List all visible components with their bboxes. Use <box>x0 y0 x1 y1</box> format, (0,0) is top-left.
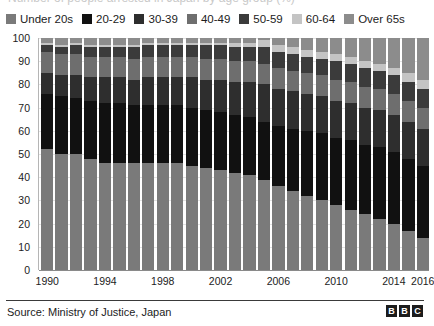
bar-column[interactable] <box>142 38 154 270</box>
bar-segment <box>200 110 212 168</box>
bar-segment <box>330 205 342 270</box>
bar-column[interactable] <box>258 38 270 270</box>
bar-column[interactable] <box>70 38 82 270</box>
legend-swatch-icon <box>292 14 302 24</box>
chart-legend: Under 20s20-2930-3940-4950-5960-64Over 6… <box>6 11 430 27</box>
bar-column[interactable] <box>55 38 67 270</box>
bar-segment <box>186 45 198 57</box>
legend-item[interactable]: 30-39 <box>134 14 177 25</box>
bar-segment <box>373 38 385 64</box>
y-axis-tick-label: 100 <box>12 32 30 44</box>
legend-item[interactable]: 40-49 <box>187 14 230 25</box>
bar-segment <box>345 38 357 57</box>
bar-segment <box>214 45 226 59</box>
bar-column[interactable] <box>84 38 96 270</box>
bar-column[interactable] <box>373 38 385 270</box>
bar-segment <box>41 73 53 94</box>
bbc-logo-block: B <box>386 305 397 317</box>
legend-label: Under 20s <box>20 14 73 25</box>
bar-column[interactable] <box>330 38 342 270</box>
bar-segment <box>142 105 154 163</box>
bar-segment <box>272 38 284 45</box>
y-axis-tick-label: 30 <box>18 194 30 206</box>
bar-segment <box>417 166 429 238</box>
bar-segment <box>287 54 299 70</box>
bar-segment <box>388 75 400 94</box>
bar-segment <box>70 98 82 154</box>
bar-segment <box>258 84 270 121</box>
bar-segment <box>359 108 371 145</box>
bar-segment <box>99 47 111 56</box>
bar-column[interactable] <box>113 38 125 270</box>
bar-column[interactable] <box>186 38 198 270</box>
bar-segment <box>330 61 342 80</box>
bar-segment <box>229 173 241 270</box>
bar-segment <box>359 87 371 108</box>
bar-column[interactable] <box>359 38 371 270</box>
legend-item[interactable]: Under 20s <box>6 14 73 25</box>
bar-column[interactable] <box>345 38 357 270</box>
bar-column[interactable] <box>402 38 414 270</box>
legend-item[interactable]: 20-29 <box>82 14 125 25</box>
bar-segment <box>316 200 328 270</box>
bar-column[interactable] <box>128 38 140 270</box>
bar-segment <box>359 214 371 270</box>
legend-label: 60-64 <box>306 14 335 25</box>
bar-segment <box>402 159 414 231</box>
bar-column[interactable] <box>301 38 313 270</box>
legend-swatch-icon <box>6 14 16 24</box>
bar-segment <box>330 138 342 205</box>
bar-column[interactable] <box>171 38 183 270</box>
bar-segment <box>55 54 67 75</box>
bar-segment <box>345 64 357 83</box>
x-axis-tick-label: 2002 <box>209 275 232 287</box>
bar-segment <box>345 210 357 270</box>
bar-segment <box>402 101 414 122</box>
bar-segment <box>113 103 125 163</box>
bar-column[interactable] <box>99 38 111 270</box>
bar-segment <box>287 38 299 47</box>
bar-segment <box>359 38 371 61</box>
bar-column[interactable] <box>243 38 255 270</box>
bar-segment <box>272 186 284 270</box>
bar-column[interactable] <box>214 38 226 270</box>
bar-segment <box>301 73 313 94</box>
bar-segment <box>186 57 198 78</box>
bar-segment <box>373 219 385 270</box>
bar-segment <box>142 57 154 78</box>
bar-column[interactable] <box>41 38 53 270</box>
bar-segment <box>157 77 169 105</box>
bar-segment <box>359 145 371 215</box>
legend-swatch-icon <box>134 14 144 24</box>
bar-column[interactable] <box>157 38 169 270</box>
legend-item[interactable]: Over 65s <box>344 14 405 25</box>
bar-segment <box>229 82 241 114</box>
bar-column[interactable] <box>287 38 299 270</box>
bar-segment <box>200 59 212 80</box>
bar-segment <box>316 133 328 200</box>
legend-item[interactable]: 60-64 <box>292 14 335 25</box>
bar-column[interactable] <box>272 38 284 270</box>
bar-column[interactable] <box>316 38 328 270</box>
bar-segment <box>373 110 385 147</box>
bar-segment <box>41 45 53 52</box>
legend-label: 40-49 <box>201 14 230 25</box>
bar-segment <box>243 175 255 270</box>
bar-series-container <box>39 38 429 270</box>
bar-segment <box>301 50 313 57</box>
y-axis: 0102030405060708090100 <box>0 30 34 270</box>
bar-segment <box>388 94 400 115</box>
bar-segment <box>41 52 53 73</box>
bar-segment <box>417 129 429 166</box>
bar-segment <box>200 45 212 59</box>
bar-column[interactable] <box>229 38 241 270</box>
plot-wrapper: 0102030405060708090100 19901994199820022… <box>0 30 430 292</box>
bar-column[interactable] <box>388 38 400 270</box>
bar-segment <box>243 47 255 61</box>
bar-column[interactable] <box>200 38 212 270</box>
legend-item[interactable]: 50-59 <box>239 14 282 25</box>
bbc-logo: BBC <box>386 305 423 317</box>
bar-segment <box>128 47 140 59</box>
bar-column[interactable] <box>417 38 429 270</box>
